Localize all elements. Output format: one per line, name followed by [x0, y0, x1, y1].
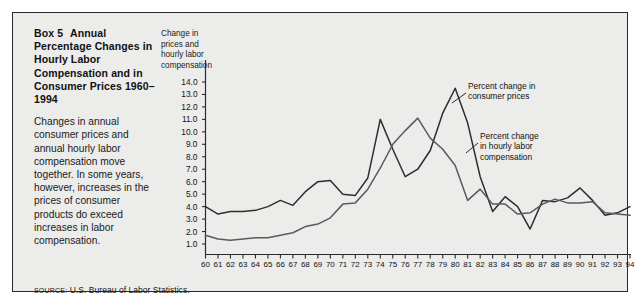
source-label: SOURCE: [34, 287, 67, 294]
left-text-column: Box 5Annual Percentage Changes in Hourly… [34, 27, 159, 247]
source-text: U.S. Bureau of Labor Statistics. [70, 285, 190, 295]
page-title: Box 5Annual Percentage Changes in Hourly… [34, 27, 159, 106]
source-note: SOURCE: U.S. Bureau of Labor Statistics. [34, 285, 284, 295]
figure-panel: Box 5Annual Percentage Changes in Hourly… [12, 12, 628, 292]
box-description: Changes in annual consumer prices and an… [34, 115, 159, 247]
box-number: Box 5 [34, 27, 63, 39]
y-axis-caption: Change in prices and hourly labor compen… [161, 29, 219, 71]
